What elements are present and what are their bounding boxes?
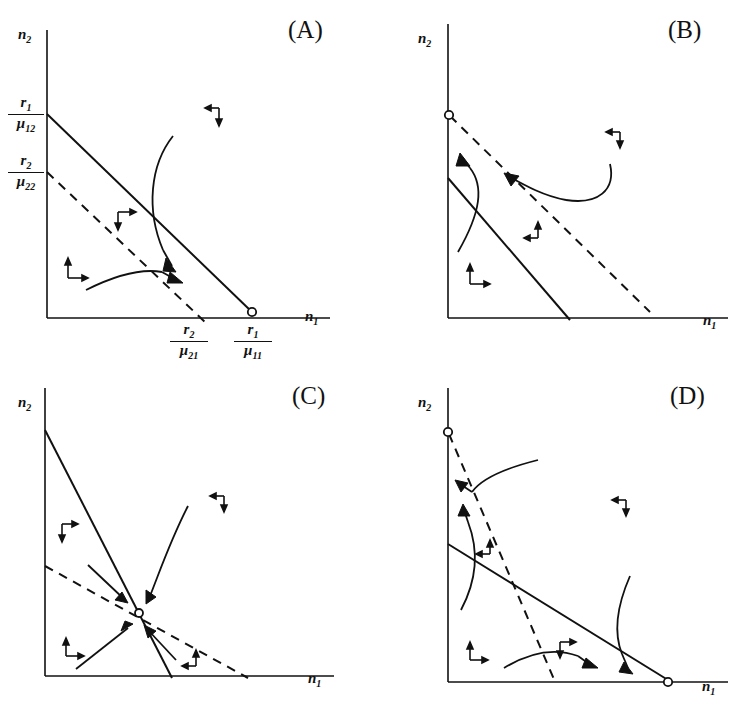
equilibrium-point-x-axis bbox=[248, 308, 256, 316]
y-intercept-label-solid-a: r1 μ12 bbox=[8, 95, 44, 134]
x-axis-label-d: n1 bbox=[702, 678, 715, 697]
trajectory-right-b bbox=[566, 164, 611, 201]
equilibrium-point-y-axis bbox=[444, 428, 452, 436]
trajectory-from-upper-left bbox=[88, 565, 128, 603]
direction-marker-left-up bbox=[476, 540, 493, 557]
panel-tag-a: (A) bbox=[288, 16, 323, 44]
trajectory-lower-a bbox=[86, 271, 162, 290]
x-axis-label-c: n1 bbox=[308, 670, 321, 689]
y-axis-label-c: n2 bbox=[18, 394, 31, 413]
panel-tag-d: (D) bbox=[670, 382, 705, 410]
direction-marker-left-down bbox=[210, 493, 227, 512]
trajectory-upper-d bbox=[472, 460, 538, 492]
dashed-nullcline-a bbox=[47, 172, 205, 322]
trajectory-left-b bbox=[458, 168, 478, 252]
trajectory-left-b-arrowhead bbox=[456, 153, 470, 166]
direction-marker-left-up bbox=[524, 222, 541, 241]
trajectory-left-d bbox=[461, 522, 475, 610]
panel-a: (A) n2 n1 r1 μ12 r2 μ22 r2 μ21 r1 μ11 bbox=[0, 0, 378, 355]
trajectory-lower-a-arrowhead bbox=[167, 272, 183, 283]
y-axis-label-b: n2 bbox=[418, 30, 431, 49]
trajectory-right-b-arrowhead bbox=[504, 173, 519, 186]
trajectory-lower-d bbox=[504, 652, 578, 668]
panel-tag-b: (B) bbox=[668, 16, 701, 44]
direction-marker-right-down bbox=[59, 521, 78, 542]
panel-b-plot bbox=[378, 0, 756, 355]
x-axis-label-a: n1 bbox=[305, 308, 318, 327]
panel-a-plot bbox=[0, 0, 378, 355]
solid-nullcline-a bbox=[47, 114, 252, 312]
direction-marker-up-right bbox=[65, 258, 88, 281]
trajectory-from-lower-left bbox=[76, 621, 133, 669]
direction-marker-left-down bbox=[612, 497, 629, 516]
trajectory-right-d bbox=[617, 576, 630, 654]
direction-marker-up-right bbox=[63, 638, 84, 659]
trajectory-left-d-arrowhead bbox=[458, 504, 470, 516]
y-intercept-label-dashed-a: r2 μ22 bbox=[8, 153, 44, 192]
direction-marker-left-down bbox=[606, 129, 623, 148]
equilibrium-point-y-axis bbox=[445, 111, 453, 119]
direction-marker-left-up bbox=[182, 650, 199, 669]
panel-c: (C) n2 n1 bbox=[0, 356, 378, 711]
y-axis-label-d: n2 bbox=[418, 394, 431, 413]
direction-marker-left-down bbox=[205, 105, 222, 126]
direction-marker-right-down bbox=[115, 209, 136, 230]
panel-d: (D) n2 n1 bbox=[378, 356, 756, 711]
x-axis-label-b: n1 bbox=[703, 312, 716, 331]
panel-b: (B) n2 n1 bbox=[378, 0, 756, 355]
trajectory-upper-d-arrowhead bbox=[455, 480, 468, 492]
equilibrium-point-x-axis bbox=[664, 678, 672, 686]
direction-marker-up-right bbox=[467, 264, 490, 287]
equilibrium-point-interior bbox=[135, 609, 143, 617]
figure-phase-planes: (A) n2 n1 r1 μ12 r2 μ22 r2 μ21 r1 μ11 bbox=[0, 0, 756, 711]
direction-marker-up-right bbox=[467, 642, 488, 663]
panel-tag-c: (C) bbox=[292, 382, 325, 410]
solid-nullcline-b bbox=[448, 178, 570, 320]
trajectory-from-upper-right bbox=[146, 506, 188, 604]
dashed-nullcline-c bbox=[45, 566, 248, 678]
y-axis-label-a: n2 bbox=[18, 26, 31, 45]
